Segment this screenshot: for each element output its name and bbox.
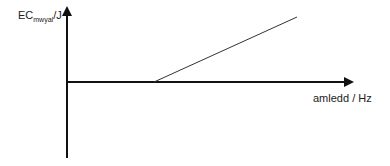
energy-line bbox=[154, 17, 297, 82]
x-axis-label: amledd / Hz bbox=[313, 92, 372, 104]
diagram-canvas: ECmwyal/J amledd / Hz bbox=[0, 0, 390, 166]
y-axis-label: ECmwyal/J bbox=[18, 9, 62, 24]
